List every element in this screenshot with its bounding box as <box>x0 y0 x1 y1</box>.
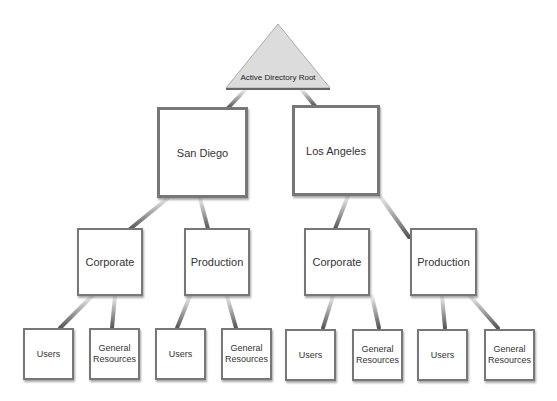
ou-sd-corp-users[interactable]: Users <box>23 328 74 380</box>
site-san-diego[interactable]: San Diego <box>157 107 248 198</box>
site-los-angeles[interactable]: Los Angeles <box>292 105 380 196</box>
ou-la-prod-resources[interactable]: General Resources <box>484 329 535 381</box>
ou-sd-prod-resources[interactable]: General Resources <box>221 328 272 380</box>
ou-la-production[interactable]: Production <box>410 228 477 296</box>
ou-la-corporate[interactable]: Corporate <box>304 228 370 296</box>
ou-la-corp-resources[interactable]: General Resources <box>352 329 403 381</box>
ou-sd-corp-resources[interactable]: General Resources <box>89 328 140 380</box>
ou-la-prod-users[interactable]: Users <box>417 329 468 381</box>
ou-sd-corporate[interactable]: Corporate <box>77 228 143 296</box>
root-label: Active Directory Root <box>222 73 334 82</box>
ou-sd-prod-users[interactable]: Users <box>155 328 206 380</box>
ou-sd-production[interactable]: Production <box>184 228 250 296</box>
ou-la-corp-users[interactable]: Users <box>285 329 336 381</box>
